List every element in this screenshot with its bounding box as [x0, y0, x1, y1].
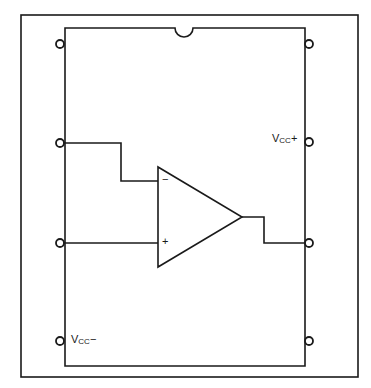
output-wire [242, 217, 305, 243]
op-amp-pinout-diagram [0, 0, 371, 388]
op-amp-symbol [158, 167, 242, 267]
pin-5 [305, 337, 313, 345]
pin-1 [56, 40, 64, 48]
pin-6 [305, 239, 313, 247]
pin-2 [56, 139, 64, 147]
outer-frame [21, 15, 358, 377]
pin-3 [56, 239, 64, 247]
inverting-input-sign: − [162, 174, 168, 185]
noninverting-input-sign: + [162, 236, 168, 247]
vcc-minus-label: VCC− [71, 334, 96, 346]
vcc-plus-label: VCC+ [272, 133, 297, 145]
pin-8 [305, 40, 313, 48]
pin-4 [56, 337, 64, 345]
inverting-input-wire [63, 143, 158, 181]
chip-body [65, 28, 305, 366]
pin-7 [305, 138, 313, 146]
